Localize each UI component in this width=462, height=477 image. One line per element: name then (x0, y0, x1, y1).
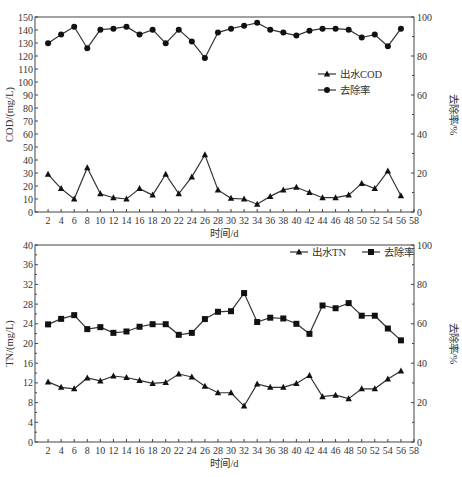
x-tick-label: 32 (239, 215, 249, 226)
data-point-circle (228, 26, 234, 32)
x-tick-label: 30 (226, 445, 236, 456)
data-point-circle (58, 32, 64, 38)
left-tick-label: 36 (23, 259, 33, 270)
data-point-triangle (71, 196, 77, 202)
data-point-circle (84, 45, 90, 51)
data-point-circle (267, 27, 273, 33)
x-tick-label: 58 (409, 215, 419, 226)
right-tick-label: 100 (417, 12, 432, 23)
left-tick-label: 40 (23, 155, 33, 166)
left-axis-title: COD/(mg/L) (4, 87, 16, 142)
left-tick-label: 0 (28, 207, 33, 218)
x-axis-title: 时间/d (210, 457, 239, 469)
x-tick-label: 40 (291, 215, 301, 226)
left-tick-label: 100 (18, 77, 33, 88)
x-tick-label: 14 (121, 215, 131, 226)
legend-square-icon (368, 249, 374, 255)
data-point-square (372, 313, 378, 319)
data-point-triangle (306, 372, 312, 378)
left-tick-label: 10 (23, 194, 33, 205)
left-tick-label: 4 (28, 417, 33, 428)
series-effluent (45, 368, 404, 409)
data-point-square (398, 337, 404, 343)
data-point-triangle (176, 371, 182, 377)
data-point-triangle (254, 380, 260, 386)
x-tick-label: 46 (331, 215, 341, 226)
data-point-triangle (398, 368, 404, 374)
right-tick-label: 80 (417, 51, 427, 62)
left-tick-label: 130 (18, 38, 33, 49)
data-point-circle (241, 23, 247, 29)
x-tick-label: 48 (344, 445, 354, 456)
data-point-square (215, 309, 221, 315)
left-tick-label: 120 (18, 51, 33, 62)
left-tick-label: 60 (23, 129, 33, 140)
left-tick-label: 20 (23, 181, 33, 192)
data-point-circle (123, 24, 129, 30)
right-axis-title: 去除率/% (448, 323, 460, 365)
x-tick-label: 26 (200, 445, 210, 456)
data-point-square (150, 321, 156, 327)
left-tick-label: 0 (28, 437, 33, 448)
left-tick-label: 24 (23, 318, 33, 329)
x-tick-label: 48 (344, 215, 354, 226)
series-effluent (45, 151, 404, 206)
left-tick-label: 8 (28, 397, 33, 408)
data-point-triangle (385, 375, 391, 381)
data-point-circle (137, 32, 143, 38)
x-tick-label: 2 (46, 215, 51, 226)
left-y-axis: 0481216202428323640 (23, 240, 38, 448)
data-point-square (333, 305, 339, 311)
x-tick-label: 34 (252, 445, 262, 456)
right-tick-label: 80 (417, 279, 427, 290)
data-point-square (137, 324, 143, 330)
data-point-circle (202, 55, 208, 61)
x-tick-label: 28 (213, 215, 223, 226)
x-tick-label: 20 (161, 215, 171, 226)
right-axis-title: 去除率/% (448, 94, 460, 136)
left-tick-label: 90 (23, 90, 33, 101)
x-tick-label: 40 (291, 445, 301, 456)
data-point-circle (150, 27, 156, 33)
data-point-square (202, 316, 208, 322)
data-point-triangle (162, 379, 168, 385)
left-tick-label: 140 (18, 25, 33, 36)
right-tick-label: 60 (417, 318, 427, 329)
data-point-triangle (202, 151, 208, 157)
legend: 出水COD去除率 (318, 68, 383, 96)
right-tick-label: 20 (417, 397, 427, 408)
x-tick-label: 8 (85, 215, 90, 226)
x-tick-label: 56 (396, 445, 406, 456)
x-tick-label: 22 (174, 215, 184, 226)
data-point-square (254, 319, 260, 325)
data-point-circle (45, 40, 51, 46)
left-tick-label: 16 (23, 358, 33, 369)
x-tick-label: 10 (95, 215, 105, 226)
x-tick-label: 42 (304, 445, 314, 456)
data-point-circle (372, 32, 378, 38)
right-tick-label: 100 (417, 240, 432, 251)
x-tick-label: 18 (148, 445, 158, 456)
right-tick-label: 40 (417, 358, 427, 369)
data-point-square (359, 313, 365, 319)
left-tick-label: 40 (23, 240, 33, 251)
legend: 出水TN去除率 (290, 246, 414, 258)
data-point-square (293, 321, 299, 327)
series-removal-rate (45, 290, 404, 343)
x-tick-label: 10 (95, 445, 105, 456)
data-point-circle (176, 27, 182, 33)
x-tick-label: 4 (59, 215, 64, 226)
x-tick-label: 54 (383, 215, 393, 226)
data-point-triangle (45, 171, 51, 177)
x-tick-label: 36 (265, 215, 275, 226)
data-point-circle (215, 30, 221, 36)
x-tick-label: 8 (85, 445, 90, 456)
x-tick-label: 2 (46, 445, 51, 456)
data-point-circle (71, 24, 77, 30)
data-point-square (280, 315, 286, 321)
x-tick-label: 44 (318, 215, 328, 226)
data-point-triangle (228, 195, 234, 201)
data-point-circle (110, 26, 116, 32)
x-tick-label: 4 (59, 445, 64, 456)
x-tick-label: 34 (252, 215, 262, 226)
